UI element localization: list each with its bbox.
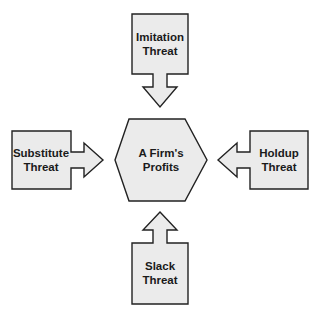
substitute-threat-label: Substitute Threat (10, 146, 72, 174)
substitute-threat-line1: Substitute (10, 146, 72, 160)
firm-profits-line1: A Firm's (125, 146, 197, 160)
imitation-threat-box (132, 14, 188, 107)
imitation-threat-label: Imitation Threat (132, 30, 188, 58)
holdup-threat-line2: Threat (250, 160, 308, 174)
firm-profits-label: A Firm's Profits (125, 146, 197, 174)
slack-threat-line1: Slack (132, 259, 188, 273)
firm-profits-line2: Profits (125, 160, 197, 174)
slack-threat-label: Slack Threat (132, 259, 188, 287)
substitute-threat-line2: Threat (10, 160, 72, 174)
imitation-threat-line1: Imitation (132, 30, 188, 44)
slack-threat-box (132, 212, 188, 304)
imitation-threat-line2: Threat (132, 44, 188, 58)
holdup-threat-line1: Holdup (250, 146, 308, 160)
threat-diagram: Imitation Threat Substitute Threat Holdu… (0, 0, 320, 317)
holdup-threat-label: Holdup Threat (250, 146, 308, 174)
slack-threat-line2: Threat (132, 273, 188, 287)
